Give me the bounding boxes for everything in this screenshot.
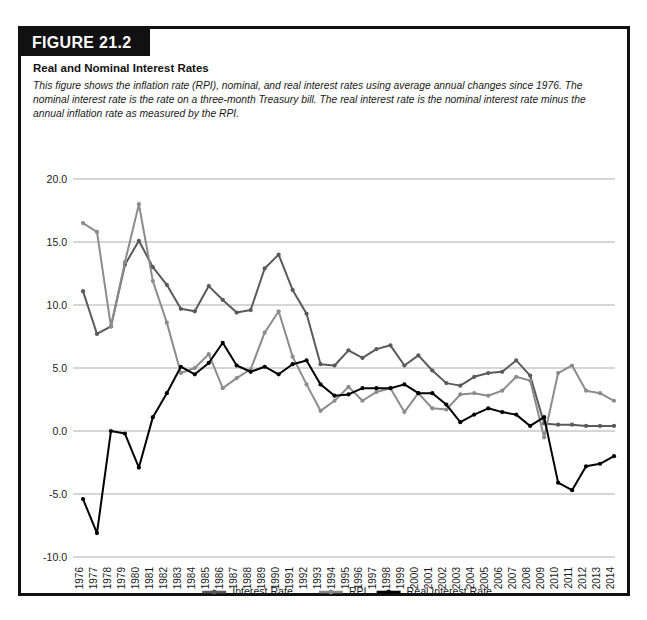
series-data-point [612, 399, 616, 403]
series-data-point [514, 358, 518, 362]
series-data-point [137, 202, 141, 206]
series-data-point [207, 352, 211, 356]
series-data-point [584, 424, 588, 428]
x-axis-tick-label: 2006 [493, 567, 504, 590]
series-data-point [207, 284, 211, 288]
y-axis-tick-label: -5.0 [49, 488, 67, 500]
series-data-point [584, 464, 588, 468]
series-data-point [95, 332, 99, 336]
series-data-point [486, 406, 490, 410]
series-data-point [402, 363, 406, 367]
x-axis-tick-label: 1999 [395, 567, 406, 590]
series-data-point [570, 488, 574, 492]
series-data-point [235, 376, 239, 380]
series-data-point [360, 399, 364, 403]
series-data-point [402, 410, 406, 414]
series-data-point [304, 382, 308, 386]
legend-swatch-marker [329, 590, 334, 595]
series-data-point [556, 423, 560, 427]
series-data-point [388, 386, 392, 390]
series-data-point [444, 402, 448, 406]
x-axis-tick-label: 2009 [535, 567, 546, 590]
series-data-point [277, 372, 281, 376]
series-data-point [458, 384, 462, 388]
series-data-point [528, 424, 532, 428]
x-axis-tick-label: 2012 [577, 567, 588, 590]
chart-gridlines [73, 179, 615, 557]
series-data-point [304, 312, 308, 316]
series-data-point [179, 307, 183, 311]
y-axis-tick-labels: 20.015.010.05.00.0-5.0-10.0 [43, 173, 67, 563]
series-data-point [263, 266, 267, 270]
x-axis-tick-label: 2011 [563, 567, 574, 589]
series-data-point [444, 381, 448, 385]
legend-item-label: Interest Rate [232, 585, 293, 596]
series-data-point [500, 410, 504, 414]
x-axis-tick-label: 1981 [144, 567, 155, 590]
series-data-point [221, 298, 225, 302]
x-axis-tick-labels: 1976197719781979198019811982198319841985… [74, 567, 616, 590]
line-chart: 20.015.010.05.00.0-5.0-10.0 197619771978… [21, 129, 627, 596]
series-data-point [416, 353, 420, 357]
series-data-point [598, 424, 602, 428]
series-data-point [374, 386, 378, 390]
series-data-point [542, 415, 546, 419]
series-data-point [304, 358, 308, 362]
x-axis-tick-label: 1979 [116, 567, 127, 590]
series-data-point [570, 423, 574, 427]
series-data-point [165, 283, 169, 287]
y-axis-tick-label: 5.0 [52, 362, 67, 374]
series-data-point [444, 407, 448, 411]
y-axis-tick-label: 0.0 [52, 425, 67, 437]
series-data-point [486, 371, 490, 375]
y-axis-tick-label: 15.0 [47, 236, 68, 248]
series-data-point [458, 392, 462, 396]
series-data-point [291, 288, 295, 292]
x-axis-tick-label: 1998 [381, 567, 392, 590]
x-axis-tick-label: 1983 [172, 567, 183, 590]
series-data-point [277, 309, 281, 313]
y-axis-tick-label: 10.0 [47, 299, 68, 311]
y-axis-tick-label: -10.0 [43, 551, 67, 563]
x-axis-tick-label: 2010 [549, 567, 560, 590]
series-data-point [207, 361, 211, 365]
series-data-point [472, 375, 476, 379]
series-data-point [165, 321, 169, 325]
series-data-point [165, 391, 169, 395]
series-data-point [277, 253, 281, 257]
series-data-point [193, 309, 197, 313]
series-data-point [263, 331, 267, 335]
series-data-point [332, 363, 336, 367]
series-data-point [81, 289, 85, 293]
series-data-point [193, 366, 197, 370]
x-axis-tick-label: 1986 [214, 567, 225, 590]
series-data-point [221, 386, 225, 390]
series-data-point [249, 370, 253, 374]
series-data-point [291, 355, 295, 359]
series-data-point [346, 392, 350, 396]
series-data-point [346, 385, 350, 389]
series-data-point [332, 394, 336, 398]
series-data-point [486, 394, 490, 398]
legend-swatch-marker [386, 590, 391, 595]
x-axis-tick-label: 1992 [298, 567, 309, 590]
figure-number-banner: FIGURE 21.2 [21, 29, 150, 56]
series-data-point [95, 230, 99, 234]
series-data-point [249, 308, 253, 312]
figure-caption: This figure shows the inflation rate (RP… [33, 79, 613, 122]
series-data-point [472, 413, 476, 417]
series-data-point [528, 379, 532, 383]
x-axis-tick-label: 1978 [102, 567, 113, 590]
series-data-point [360, 386, 364, 390]
series-data-point [151, 415, 155, 419]
series-data-point [137, 465, 141, 469]
series-data-point [556, 371, 560, 375]
figure-title: Real and Nominal Interest Rates [33, 62, 209, 74]
series-data-point [193, 372, 197, 376]
series-data-point [514, 375, 518, 379]
series-data-point [346, 348, 350, 352]
x-axis-tick-label: 1976 [74, 567, 85, 590]
series-data-point [109, 429, 113, 433]
chart-series-layer [81, 202, 616, 535]
series-data-point [137, 239, 141, 243]
